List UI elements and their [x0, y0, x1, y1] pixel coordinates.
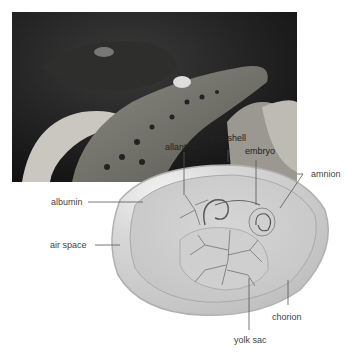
- egg-diagram: [0, 0, 361, 354]
- label-embryo: embryo: [245, 147, 275, 156]
- label-egg-shell: egg shell: [210, 134, 246, 143]
- label-allantois: allantois: [165, 143, 198, 152]
- label-chorion: chorion: [272, 313, 302, 322]
- label-albumin: albumin: [51, 198, 83, 207]
- label-amnion: amnion: [311, 170, 341, 179]
- label-yolk-sac: yolk sac: [234, 336, 267, 345]
- label-air-space: air space: [50, 241, 87, 250]
